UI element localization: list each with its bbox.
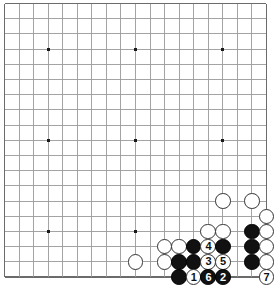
star-point [221,48,224,51]
move-number-label: 1 [191,272,197,283]
star-point [134,139,137,142]
stone-white[interactable] [200,224,216,240]
star-point [134,230,137,233]
star-point [134,48,137,51]
star-point [47,48,50,51]
stone-white-move-7[interactable]: 7 [259,269,275,285]
move-number-label: 3 [205,256,211,267]
move-number-label: 5 [220,256,226,267]
stone-black[interactable] [244,254,260,270]
stone-white-move-5[interactable]: 5 [215,254,231,270]
move-number-label: 6 [205,272,211,283]
stone-white-move-3[interactable]: 3 [200,254,216,270]
goban-grid [0,0,276,288]
move-number-label: 4 [205,241,211,252]
stone-black[interactable] [171,254,187,270]
stone-white[interactable] [215,224,231,240]
stone-black[interactable] [171,269,187,285]
star-point [47,139,50,142]
stone-black[interactable] [186,254,202,270]
go-board-diagram: 4351627 [0,0,276,288]
stone-black-move-2[interactable]: 2 [215,269,231,285]
stone-white[interactable] [128,254,144,270]
move-number-label: 2 [220,272,226,283]
stone-white[interactable] [259,209,275,225]
stone-white[interactable] [259,254,275,270]
move-number-label: 7 [264,272,270,283]
stone-black[interactable] [244,239,260,255]
stone-white[interactable] [244,193,260,209]
stone-white[interactable] [215,193,231,209]
stone-black-move-6[interactable]: 6 [200,269,216,285]
star-point [47,230,50,233]
star-point [221,139,224,142]
stone-black[interactable] [215,239,231,255]
stone-white[interactable] [157,254,173,270]
stone-black[interactable] [244,224,260,240]
